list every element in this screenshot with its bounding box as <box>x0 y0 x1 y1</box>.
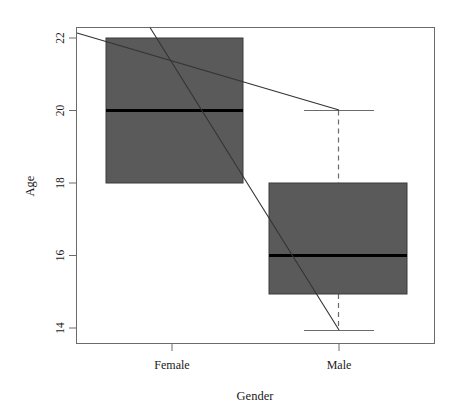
y-tick-label-18: 18 <box>54 177 66 189</box>
boxplot-figure: 22 20 18 16 14 Age <box>0 0 455 410</box>
y-tick-label-20: 20 <box>54 105 66 117</box>
chart-canvas: 22 20 18 16 14 Age <box>0 0 455 410</box>
y-tick-label-14: 14 <box>54 322 66 334</box>
x-axis-ticks <box>172 344 339 352</box>
y-tick-label-16: 16 <box>54 250 66 262</box>
box-female <box>106 38 243 183</box>
x-tick-label-male: Male <box>327 358 352 372</box>
x-axis-title: Gender <box>237 389 275 403</box>
y-axis-tick-labels: 22 20 18 16 14 <box>54 32 66 334</box>
y-tick-label-22: 22 <box>54 32 66 44</box>
box-male <box>269 111 407 331</box>
y-axis-title: Age <box>23 175 37 196</box>
x-tick-label-female: Female <box>154 358 189 372</box>
box-male-rect <box>269 183 407 294</box>
y-axis-ticks <box>69 38 77 328</box>
